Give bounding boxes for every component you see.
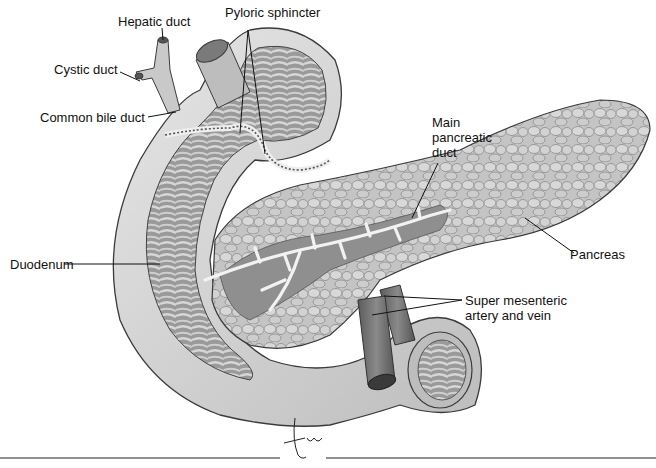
- label-mpd-line3: duct: [432, 145, 492, 160]
- bile-ducts: [135, 37, 180, 113]
- label-duodenum: Duodenum: [10, 257, 74, 272]
- label-main-pancreatic-duct: Main pancreatic duct: [432, 115, 492, 160]
- anatomy-diagram: Hepatic duct Pyloric sphincter Cystic du…: [0, 0, 656, 468]
- label-cystic-duct: Cystic duct: [54, 62, 118, 77]
- label-mpd-line2: pancreatic: [432, 130, 492, 145]
- duodenum-lower-opening: [408, 332, 472, 408]
- label-common-bile-duct: Common bile duct: [40, 110, 145, 125]
- label-superior-mesenteric: Super mesenteric artery and vein: [465, 293, 567, 323]
- label-pyloric-sphincter: Pyloric sphincter: [225, 5, 320, 20]
- label-mpd-line1: Main: [432, 115, 492, 130]
- label-hepatic-duct: Hepatic duct: [118, 14, 190, 29]
- label-sma-line2: artery and vein: [465, 308, 567, 323]
- label-sma-line1: Super mesenteric: [465, 293, 567, 308]
- label-pancreas: Pancreas: [570, 247, 625, 262]
